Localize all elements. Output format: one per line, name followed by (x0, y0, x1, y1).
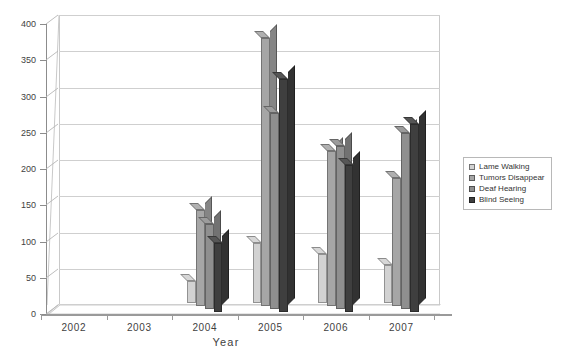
bar-front-face (392, 178, 401, 306)
bar-2005-blind-seeing[interactable] (279, 79, 288, 312)
bar-front-face (187, 281, 196, 303)
x-axis-tick (238, 314, 239, 320)
bar-2006-deaf-hearing[interactable] (336, 146, 345, 309)
gridline (59, 124, 440, 125)
bar-front-face (196, 210, 205, 306)
bar-2007-tumors-disappear[interactable] (392, 178, 401, 306)
bar-side-face (419, 110, 426, 305)
bar-front-face (270, 113, 279, 309)
legend-label-deaf-hearing: Deaf Hearing (479, 185, 526, 193)
bar-front-face (401, 133, 410, 309)
bar-2006-lame-walking[interactable] (318, 254, 327, 303)
depth-edge-left (46, 14, 60, 306)
bar-2005-deaf-hearing[interactable] (270, 113, 279, 309)
gridline (59, 15, 440, 16)
bar-front-face (345, 165, 354, 312)
bar-2007-deaf-hearing[interactable] (401, 133, 410, 309)
bar-side-face (353, 151, 360, 305)
legend-swatch-tumors-disappear (469, 175, 475, 181)
bar-front-face (318, 254, 327, 303)
y-axis-tick (40, 133, 46, 134)
y-axis-label: 0 (31, 309, 36, 319)
legend-swatch-lame-walking (469, 164, 475, 170)
legend-label-lame-walking: Lame Walking (479, 163, 529, 171)
bar-2006-blind-seeing[interactable] (345, 165, 354, 312)
bar-front-face (214, 243, 223, 312)
gridline (59, 233, 440, 234)
bar-chart: 050100150200250300350400 200220032004200… (0, 0, 563, 351)
bar-front-face (410, 124, 419, 312)
x-axis-label: 2003 (127, 322, 152, 333)
bar-side-face (222, 229, 229, 305)
x-axis-tick (41, 314, 42, 320)
chart-legend: Lame Walking Tumors Disappear Deaf Heari… (463, 157, 552, 210)
x-axis-label: 2005 (258, 322, 283, 333)
y-axis-label: 100 (21, 237, 36, 247)
bar-2004-lame-walking[interactable] (187, 281, 196, 303)
legend-item-blind-seeing[interactable]: Blind Seeing (469, 196, 546, 204)
y-axis-label: 50 (26, 273, 36, 283)
gridline (59, 88, 440, 89)
y-axis-label: 300 (21, 92, 36, 102)
y-axis-label: 400 (21, 19, 36, 29)
y-tick-depth-connector (46, 14, 59, 24)
y-axis-label: 250 (21, 128, 36, 138)
y-axis-tick (40, 205, 46, 206)
x-axis-label: 2004 (192, 322, 217, 333)
x-axis-tick (434, 314, 435, 320)
bar-front-face (261, 38, 270, 306)
y-axis-tick (40, 60, 46, 61)
legend-item-lame-walking[interactable]: Lame Walking (469, 163, 546, 171)
bar-front-face (336, 146, 345, 309)
legend-item-deaf-hearing[interactable]: Deaf Hearing (469, 185, 546, 193)
bar-2006-tumors-disappear[interactable] (327, 151, 336, 306)
x-axis-label: 2006 (323, 322, 348, 333)
y-axis-label: 150 (21, 200, 36, 210)
x-axis-tick (172, 314, 173, 320)
x-axis-tick (107, 314, 108, 320)
bar-2004-tumors-disappear[interactable] (196, 210, 205, 306)
gridline (59, 51, 440, 52)
legend-label-blind-seeing: Blind Seeing (479, 196, 524, 204)
y-axis-tick (40, 24, 46, 25)
bar-2004-blind-seeing[interactable] (214, 243, 223, 312)
bar-2007-blind-seeing[interactable] (410, 124, 419, 312)
legend-swatch-blind-seeing (469, 197, 475, 203)
x-axis-tick (369, 314, 370, 320)
bar-front-face (327, 151, 336, 306)
x-axis-tick (303, 314, 304, 320)
legend-item-tumors-disappear[interactable]: Tumors Disappear (469, 174, 546, 182)
bar-front-face (279, 79, 288, 312)
bar-2005-tumors-disappear[interactable] (261, 38, 270, 306)
bar-2007-lame-walking[interactable] (384, 265, 393, 303)
legend-label-tumors-disappear: Tumors Disappear (479, 174, 545, 182)
y-axis-line (46, 24, 47, 315)
gridline (59, 196, 440, 197)
x-axis-title: Year (0, 336, 452, 348)
y-axis-tick (40, 97, 46, 98)
x-axis-label: 2002 (61, 322, 86, 333)
y-axis-label: 200 (21, 164, 36, 174)
plot-area (47, 24, 440, 314)
legend-swatch-deaf-hearing (469, 186, 475, 192)
y-axis-tick (40, 169, 46, 170)
y-axis-tick (40, 242, 46, 243)
bar-2005-lame-walking[interactable] (253, 243, 262, 303)
x-axis-line (41, 314, 452, 316)
y-axis-tick (40, 278, 46, 279)
gridline (59, 160, 440, 161)
y-axis-label: 350 (21, 55, 36, 65)
bar-side-face (288, 65, 295, 305)
x-axis-label: 2007 (389, 322, 414, 333)
